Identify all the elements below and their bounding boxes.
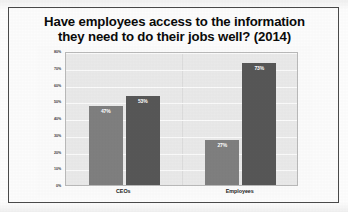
y-axis-tick-label: 50%	[54, 100, 61, 104]
bar-value-label: 27%	[205, 142, 239, 148]
x-axis-category-label: Employees	[226, 188, 254, 194]
chart-title-line-1: Have employees access to the information	[23, 14, 326, 29]
y-axis-tick-label: 60%	[54, 84, 61, 88]
bar-value-label: 73%	[242, 65, 276, 71]
bar-value-label: 47%	[89, 108, 123, 114]
chart-plot-container: 0%10%20%30%40%50%60%70%80% 47%53%27%73% …	[37, 46, 312, 196]
plot-area: 47%53%27%73%	[65, 52, 298, 186]
x-axis-category-label: CEOs	[116, 188, 130, 194]
chart-title-line-2: they need to do their jobs well? (2014)	[23, 29, 326, 44]
x-axis: CEOsEmployees	[65, 188, 298, 200]
y-axis-tick-label: 0%	[56, 184, 61, 188]
y-axis-tick-label: 80%	[54, 50, 61, 54]
chart-title: Have employees access to the information…	[23, 14, 326, 44]
bar-value-label: 53%	[126, 98, 160, 104]
chart-frame: Have employees access to the information…	[8, 7, 339, 203]
y-axis-tick-label: 10%	[54, 167, 61, 171]
y-axis-tick-label: 70%	[54, 67, 61, 71]
bar-employees-27: 27%	[205, 140, 239, 185]
y-axis: 0%10%20%30%40%50%60%70%80%	[37, 52, 63, 186]
category-divider	[182, 53, 183, 185]
bar-ceos-53: 53%	[126, 96, 160, 185]
gridline	[66, 53, 297, 54]
y-axis-tick-label: 30%	[54, 134, 61, 138]
bar-employees-73: 73%	[242, 63, 276, 185]
y-axis-tick-label: 40%	[54, 117, 61, 121]
y-axis-tick-label: 20%	[54, 151, 61, 155]
scanned-page: Have employees access to the information…	[0, 0, 348, 212]
bar-ceos-47: 47%	[89, 106, 123, 185]
